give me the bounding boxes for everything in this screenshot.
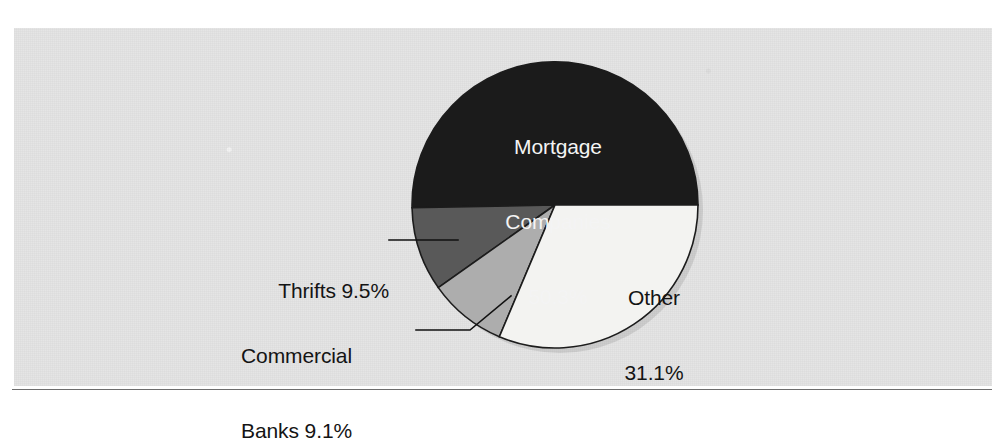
pie-label-commercial-banks: Commercial Banks 9.1% bbox=[241, 293, 417, 442]
pie-label-other-line1: Other bbox=[588, 285, 720, 310]
pie-label-mortgage-line2: Companies bbox=[452, 209, 664, 234]
pie-label-mortgage-line1: Mortgage bbox=[452, 134, 664, 159]
pie-label-other: Other 31.1% bbox=[588, 235, 720, 435]
pie-label-commercial-line1: Commercial bbox=[241, 343, 417, 368]
pie-label-commercial-line2: Banks 9.1% bbox=[241, 418, 417, 442]
pie-label-other-value: 31.1% bbox=[588, 360, 720, 385]
